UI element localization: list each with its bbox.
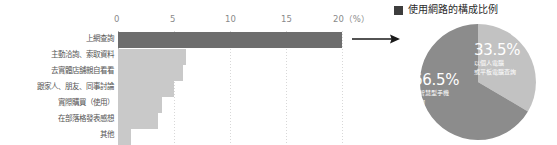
pie-chart-legend: 使用網路的構成比例 xyxy=(394,3,498,17)
x-axis-tick-labels: 0 5 10 15 20（%） xyxy=(0,14,390,28)
category-label-6: 其他 xyxy=(0,127,114,143)
bar-1 xyxy=(118,49,186,65)
x-tick-15: 15 xyxy=(281,14,292,25)
filled-square-icon xyxy=(394,6,403,15)
category-label-2: 去實體店舖親自看看 xyxy=(0,63,114,79)
pie-sublabel-66-5-line1: 以智慧型手機 xyxy=(413,89,459,97)
bar-0 xyxy=(118,32,342,48)
category-label-0: 上網查詢 xyxy=(0,31,114,47)
category-axis-labels: 上網查詢 主動洽詢、索取資料 去實體店舖親自看看 跟家人、朋友、同事討論 實際購… xyxy=(0,31,114,143)
pie-sublabel-33-5-line1: 以個人電腦 xyxy=(474,59,520,67)
bar-5 xyxy=(118,113,158,129)
category-label-4: 實際購買（使用） xyxy=(0,95,114,111)
chart-figure: 0 5 10 15 20（%） 上網查詢 主動洽詢、索取資料 去實體店舖親自看看… xyxy=(0,0,557,145)
category-label-1: 主動洽詢、索取資料 xyxy=(0,47,114,63)
bar-6 xyxy=(118,129,131,145)
pie-label-33-5: 33.5% 以個人電腦 或平板電腦查詢 xyxy=(474,42,520,75)
x-tick-0: 0 xyxy=(114,14,119,25)
pie-chart-panel: 使用網路的構成比例 33.5% 以個人電腦 或平板電腦查詢 66.5% 以智慧型… xyxy=(390,0,557,145)
bar-3 xyxy=(118,81,174,97)
pie-percent-66-5: 66.5% xyxy=(413,72,459,88)
pie-chart-title: 使用網路的構成比例 xyxy=(408,4,498,16)
bar-4 xyxy=(118,97,162,113)
pie-label-66-5: 66.5% 以智慧型手機 查詢 xyxy=(413,72,459,105)
bar-2 xyxy=(118,65,183,81)
bar-plot-area xyxy=(118,31,345,143)
pie-percent-33-5: 33.5% xyxy=(474,42,520,58)
bar-series xyxy=(118,31,345,143)
x-tick-5: 5 xyxy=(170,14,175,25)
category-label-5: 在部落格發表感想 xyxy=(0,111,114,127)
pie-sublabel-33-5-line2: 或平板電腦查詢 xyxy=(474,68,520,76)
pie-sublabel-66-5-line2: 查詢 xyxy=(413,98,459,106)
x-tick-20: 20（%） xyxy=(333,14,370,25)
category-label-3: 跟家人、朋友、同事討論 xyxy=(0,79,114,95)
x-tick-10: 10 xyxy=(225,14,236,25)
bar-chart-panel: 0 5 10 15 20（%） 上網查詢 主動洽詢、索取資料 去實體店舖親自看看… xyxy=(0,0,390,145)
